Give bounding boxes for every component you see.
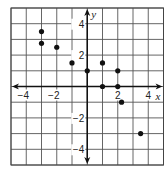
data-point [39,41,44,46]
data-point [115,84,120,89]
data-point [69,60,74,65]
data-point [115,68,120,73]
data-point [54,45,59,50]
data-point [100,60,105,65]
data-point [138,131,143,136]
x-tick-label: 2 [115,90,121,101]
data-points [39,29,143,136]
data-point [119,100,124,105]
y-axis-label: y [90,8,96,20]
axes [12,9,163,164]
coordinate-plane: −4−22442−2−4 x y [0,0,166,173]
x-tick-label: −2 [48,90,60,101]
data-point [39,29,44,34]
x-tick-label: 4 [145,90,151,101]
data-point [100,84,105,89]
y-tick-label: −4 [73,144,85,155]
x-tick-label: −4 [18,90,30,101]
x-axis-label: x [155,90,161,102]
data-point [85,68,90,73]
y-tick-label: −2 [73,113,85,124]
y-tick-label: 4 [79,19,85,30]
y-tick-label: 2 [79,50,85,61]
